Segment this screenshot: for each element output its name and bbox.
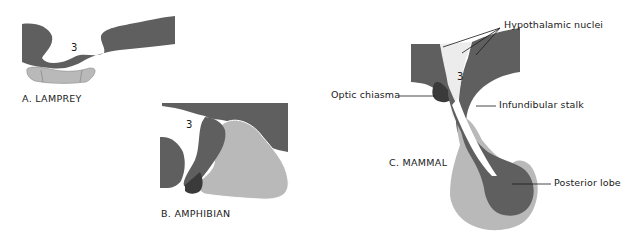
amphibian-diagram [160, 103, 288, 199]
lamprey-brain-floor [22, 16, 175, 69]
label-infundibular-stalk: Infundibular stalk [499, 99, 584, 110]
label-hypothalamic-nuclei: Hypothalamic nuclei [504, 19, 603, 30]
mammal-diagram [399, 28, 551, 230]
panel-label-mammal: C. MAMMAL [389, 157, 447, 168]
panel-label-lamprey: A. LAMPREY [22, 93, 82, 104]
panel-label-amphibian: B. AMPHIBIAN [161, 208, 230, 219]
amphibian-floor [160, 137, 185, 188]
lamprey-ventricle-number: 3 [71, 42, 77, 53]
amphibian-ventricle-number: 3 [186, 119, 192, 130]
lamprey-diagram [22, 16, 175, 83]
label-posterior-lobe: Posterior lobe [554, 177, 621, 188]
anatomy-figure [0, 0, 642, 241]
lamprey-hypophysis [27, 67, 95, 83]
label-optic-chiasma: Optic chiasma [331, 89, 400, 100]
mammal-ventricle-number: 3 [457, 71, 463, 82]
